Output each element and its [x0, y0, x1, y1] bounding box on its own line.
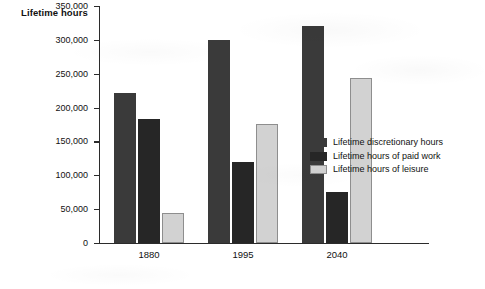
bar-2040-series-1: [326, 192, 348, 243]
y-axis-tick-label: 350,000: [26, 1, 88, 11]
x-axis-label-1995: 1995: [232, 249, 253, 260]
y-axis-tick-label: 150,000: [26, 136, 88, 146]
bar-1880-series-1: [138, 119, 160, 243]
y-axis-tick-label: 300,000: [26, 35, 88, 45]
legend-item: Lifetime hours of paid work: [310, 150, 443, 164]
x-axis-label-2040: 2040: [326, 249, 347, 260]
legend-item: Lifetime hours of leisure: [310, 163, 443, 177]
bar-1995-series-1: [232, 162, 254, 243]
legend-label: Lifetime hours of leisure: [333, 165, 429, 174]
y-axis-tick: [94, 243, 100, 244]
legend-swatch-icon: [310, 165, 327, 174]
bar-chart: Lifetime hours 050,000100,000150,000200,…: [0, 0, 485, 289]
bar-1880-series-0: [114, 93, 136, 243]
legend-swatch-icon: [310, 138, 327, 147]
y-axis-tick-label: 100,000: [26, 170, 88, 180]
legend-label: Lifetime hours of paid work: [333, 152, 441, 161]
x-axis-line: [99, 243, 429, 244]
bar-1880-series-2: [162, 213, 184, 243]
bar-1995-series-2: [256, 124, 278, 243]
plot-area: [100, 6, 429, 243]
legend-item: Lifetime discretionary hours: [310, 136, 443, 150]
y-axis-tick-label: 250,000: [26, 69, 88, 79]
chart-legend: Lifetime discretionary hoursLifetime hou…: [310, 136, 443, 177]
y-axis-tick-label: 0: [26, 238, 88, 248]
x-axis-label-1880: 1880: [138, 249, 159, 260]
legend-swatch-icon: [310, 152, 327, 161]
legend-label: Lifetime discretionary hours: [333, 138, 443, 147]
bar-2040-series-0: [302, 26, 324, 243]
y-axis-tick-label: 200,000: [26, 103, 88, 113]
bar-1995-series-0: [208, 40, 230, 243]
y-axis-tick-label: 50,000: [26, 204, 88, 214]
